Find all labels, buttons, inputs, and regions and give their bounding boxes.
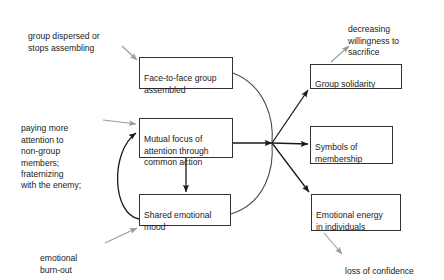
- annotation-group-dispersed: group dispersed or stops assembling: [28, 20, 100, 54]
- diagram-canvas: Face-to-face group assembled Mutual focu…: [0, 0, 444, 280]
- node-mutual-focus[interactable]: Mutual focus of attention through common…: [139, 118, 233, 158]
- node-face-to-face[interactable]: Face-to-face group assembled: [139, 57, 233, 89]
- edge-dispersed-to-face: [122, 46, 137, 60]
- edge-energy-to-loss: [324, 233, 342, 254]
- annotation-group-dispersed-label: group dispersed or stops assembling: [28, 31, 100, 52]
- node-symbols-membership-label: Symbols of membership: [315, 142, 362, 163]
- annotation-loss-of-confidence: loss of confidence: [345, 255, 414, 278]
- edge-junction-to-solidarity: [272, 90, 308, 143]
- annotation-paying-more-attention: paying more attention to non-group membe…: [21, 112, 81, 192]
- annotation-paying-more-attention-label: paying more attention to non-group membe…: [21, 123, 81, 190]
- node-shared-mood[interactable]: Shared emotional mood: [139, 194, 231, 226]
- edge-junction-to-symbols: [272, 143, 308, 144]
- edge-mood-to-mutual-feedback: [118, 133, 139, 219]
- annotation-emotional-burn-out: emotional burn-out: [40, 242, 77, 276]
- node-group-solidarity-label: Group solidarity: [315, 79, 375, 89]
- node-group-solidarity[interactable]: Group solidarity: [310, 64, 402, 89]
- edge-solidarity-to-decreasing: [331, 46, 349, 62]
- node-emotional-energy[interactable]: Emotional energy in individuals: [311, 194, 401, 231]
- edge-paying-to-mutual: [103, 120, 136, 124]
- edge-junction-to-energy: [272, 143, 309, 192]
- annotation-emotional-burn-out-label: emotional burn-out: [40, 253, 77, 274]
- annotation-loss-of-confidence-label: loss of confidence: [345, 266, 414, 276]
- edge-burnout-to-mood: [105, 228, 137, 243]
- node-mutual-focus-label: Mutual focus of attention through common…: [144, 134, 209, 167]
- node-emotional-energy-label: Emotional energy in individuals: [316, 210, 383, 231]
- annotation-decreasing-willingness: decreasing willingness to sacrifice: [348, 13, 399, 59]
- node-symbols-membership[interactable]: Symbols of membership: [310, 126, 393, 164]
- annotation-decreasing-willingness-label: decreasing willingness to sacrifice: [348, 24, 399, 57]
